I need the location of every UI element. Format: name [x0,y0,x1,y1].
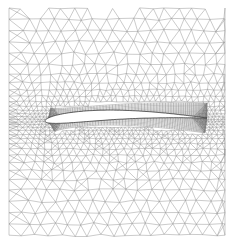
mesh-canvas [0,0,235,245]
mesh-figure [0,0,235,245]
